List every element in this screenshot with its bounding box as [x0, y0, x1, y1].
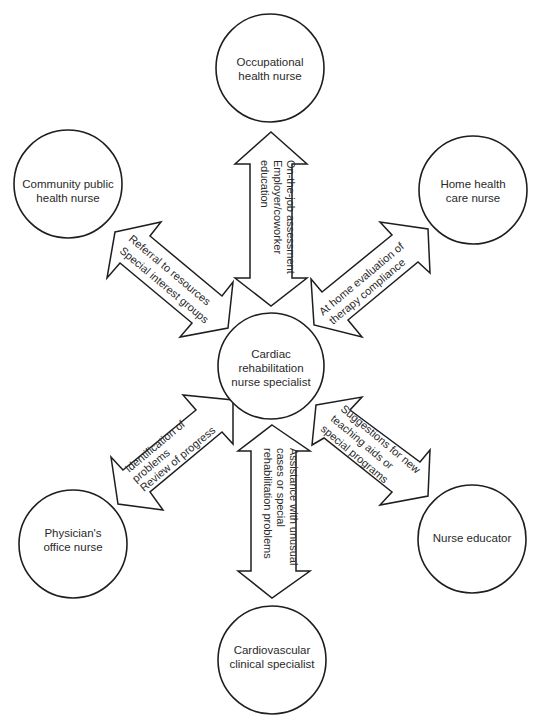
arrow-occupational: On-the-job assessment Employer/coworker … [235, 132, 307, 306]
arrow-cardiovascular: Assistance with unusual cases or special… [238, 425, 310, 598]
arrow-community: Referral to resources Special interest g… [107, 222, 233, 337]
node-cardiovascular-line-2: clinical specialist [229, 658, 315, 670]
nursing-roles-diagram: On-the-job assessment Employer/coworker … [0, 0, 537, 725]
node-cardiovascular-clinical-specialist: Cardiovascular clinical specialist [218, 606, 326, 714]
arrow-cardiovascular-line-3: rehabilitation problems [262, 448, 274, 559]
node-center-line-1: Cardiac [251, 348, 291, 360]
node-nurse-educator: Nurse educator [418, 485, 526, 593]
node-occupational-health-nurse: Occupational health nurse [216, 14, 324, 122]
node-cardiac-rehabilitation-nurse-specialist: Cardiac rehabilitation nurse specialist [218, 313, 324, 419]
node-physician-line-2: office nurse [43, 541, 102, 553]
node-occupational-line-1: Occupational [236, 56, 303, 68]
node-community-public-health-nurse: Community public health nurse [14, 130, 122, 238]
node-physicians-office-nurse: Physician's office nurse [19, 490, 127, 598]
svg-text:Employer/coworker: Employer/coworker [272, 160, 284, 254]
arrow-occupational-line-1: On-the-job assessment [285, 160, 297, 274]
node-nurse-educator-line-1: Nurse educator [433, 532, 512, 544]
node-community-line-2: health nurse [36, 192, 99, 204]
node-community-line-1: Community public [22, 178, 114, 190]
arrow-cardiovascular-line-2: cases or special [275, 448, 287, 527]
node-home-health-care-nurse: Home health care nurse [419, 136, 527, 244]
arrow-physician-office: Identification of problems Review of pro… [111, 395, 233, 510]
node-center-line-2: rehabilitation [238, 362, 303, 374]
node-home-health-line-1: Home health [440, 178, 505, 190]
svg-text:rehabilitation problems: rehabilitation problems [262, 448, 274, 559]
svg-text:cases or special: cases or special [275, 448, 287, 527]
arrow-occupational-line-3: education [259, 160, 271, 208]
node-home-health-line-2: care nurse [446, 192, 500, 204]
svg-text:education: education [259, 160, 271, 208]
node-cardiovascular-line-1: Cardiovascular [234, 644, 311, 656]
node-occupational-line-2: health nurse [238, 70, 301, 82]
arrow-home-health: At home evaluation of therapy compliance [311, 222, 430, 337]
svg-text:Assistance with unusual: Assistance with unusual [288, 448, 300, 565]
node-center-line-3: nurse specialist [231, 376, 311, 388]
svg-text:On-the-job assessment: On-the-job assessment [285, 160, 297, 274]
node-physician-line-1: Physician's [44, 527, 101, 539]
arrow-occupational-line-2: Employer/coworker [272, 160, 284, 254]
arrow-cardiovascular-line-1: Assistance with unusual [288, 448, 300, 565]
arrow-nurse-educator: Suggestions for new teaching aids or spe… [312, 397, 430, 505]
